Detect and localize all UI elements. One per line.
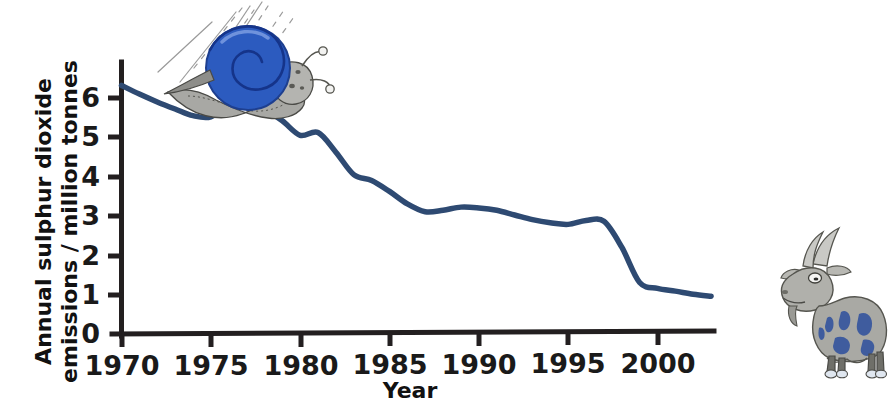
goat-body (813, 297, 887, 362)
x-tick-label-1980: 1980 (255, 352, 347, 379)
x-tick-label-2000: 2000 (612, 350, 704, 377)
goat-beard (788, 306, 797, 326)
y-axis-title-line-1: Annual sulphur dioxide (31, 57, 57, 387)
goat-pupil (814, 277, 819, 280)
x-axis-line (112, 331, 714, 334)
goat-nostril (782, 290, 788, 294)
x-tick-label-1990: 1990 (433, 351, 525, 378)
x-tick-label-1995: 1995 (522, 350, 614, 377)
x-tick-label-1985: 1985 (344, 351, 436, 378)
x-tick-label-1970: 1970 (76, 352, 168, 379)
goat-hooves (825, 370, 887, 378)
goat-illustration (775, 222, 893, 380)
y-axis-title: Annual sulphur dioxide emissions / milli… (31, 57, 82, 387)
chart-figure: 6 5 4 3 2 1 0 1970 1975 1980 1985 1990 1… (0, 0, 893, 417)
snail-illustration (150, 0, 335, 141)
x-axis-title: Year (330, 378, 490, 403)
x-tick-label-1975: 1975 (165, 352, 257, 379)
snail-eye-lower (326, 85, 334, 93)
y-axis-title-line-2: emissions / million tonnes (57, 57, 83, 387)
goat-horns (803, 228, 839, 268)
snail-eye-upper (319, 47, 327, 55)
